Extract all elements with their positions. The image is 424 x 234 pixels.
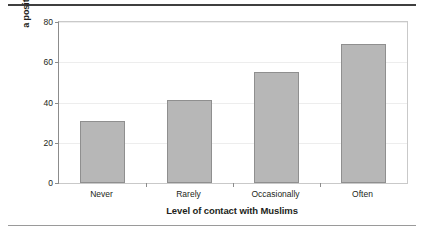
x-axis-label-never: Never [58, 189, 145, 199]
plot-area: 020406080 [58, 21, 408, 184]
figure: % reporting a positive impression of Isl… [0, 0, 424, 234]
x-axis-label-often: Often [319, 189, 406, 199]
x-axis-label-occasionally: Occasionally [232, 189, 319, 199]
x-axis-tick-mark [233, 183, 234, 187]
x-axis-title: Level of contact with Muslims [58, 205, 406, 216]
bottom-rule [8, 225, 416, 226]
bar-often[interactable] [341, 44, 386, 183]
x-axis-tick-mark [146, 183, 147, 187]
bar-cell [59, 22, 146, 183]
bar-rarely[interactable] [167, 100, 212, 183]
x-axis-category-labels: NeverRarelyOccasionallyOften [58, 189, 406, 199]
bar-never[interactable] [80, 121, 125, 183]
bar-cell [320, 22, 407, 183]
x-axis-tick-mark [320, 183, 321, 187]
bar-occasionally[interactable] [254, 72, 299, 183]
bar-series [59, 22, 407, 183]
bar-cell [146, 22, 233, 183]
x-axis-label-rarely: Rarely [145, 189, 232, 199]
top-rule [8, 4, 416, 6]
y-axis-tick-mark [55, 183, 59, 184]
bar-cell [233, 22, 320, 183]
